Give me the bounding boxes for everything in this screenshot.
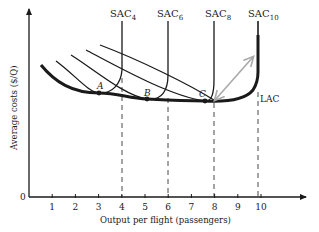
sac-10-label: SAC10 (248, 8, 279, 22)
point-a-marker (97, 91, 102, 96)
drop-lines (122, 78, 258, 196)
sac-6-curve (71, 21, 168, 99)
point-b-label: B (143, 88, 151, 98)
x-tick-label: 3 (96, 202, 102, 212)
x-tick-label: 5 (142, 202, 148, 212)
point-c-label: C (199, 89, 206, 99)
x-tick-label: 4 (119, 202, 125, 212)
x-tick-label: 9 (235, 202, 241, 212)
x-axis-title: Output per flight (passengers) (100, 215, 231, 225)
sac-8-label: SAC8 (205, 8, 231, 22)
x-tick-label: 2 (73, 202, 79, 212)
x-tick-label: 7 (189, 202, 195, 212)
x-tick-label: 8 (212, 202, 218, 212)
cost-curves-diagram: 0 Average costs ($/Q) Output per flight … (0, 0, 319, 232)
sac-6-label: SAC6 (157, 8, 184, 22)
sac-4-label: SAC4 (110, 8, 137, 22)
x-tick-label: 1 (49, 202, 55, 212)
y-axis-title: Average costs ($/Q) (9, 65, 19, 151)
point-a-label: A (96, 81, 104, 91)
origin-label: 0 (20, 192, 26, 202)
x-tick-label: 6 (165, 202, 171, 212)
sac-10-curve (100, 45, 214, 100)
point-c-marker (203, 99, 208, 104)
lac-label: LAC (260, 94, 279, 104)
x-tick-label: 10 (255, 202, 267, 212)
